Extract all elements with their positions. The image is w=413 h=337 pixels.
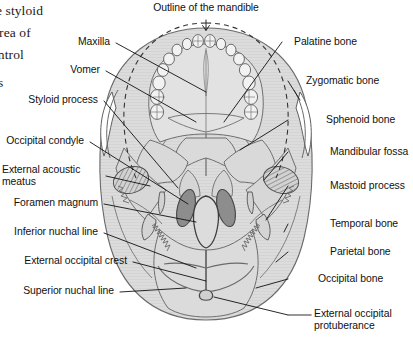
label-zygomatic-bone: Zygomatic bone [306, 75, 379, 87]
label-vomer: Vomer [2, 64, 100, 76]
label-palatine-bone: Palatine bone [294, 36, 357, 48]
page-text-fragment-1: e styloid [0, 2, 43, 20]
label-sphenoid-bone: Sphenoid bone [326, 114, 395, 126]
page-text-fragment-3: ontrol [0, 46, 24, 64]
label-outline-of-the-mandible: Outline of the mandible [130, 2, 282, 14]
label-mandibular-fossa: Mandibular fossa [330, 146, 408, 158]
label-superior-nuchal-line: Superior nuchal line [0, 285, 114, 297]
label-mastoid-process: Mastoid process [330, 180, 405, 192]
label-styloid-process: Styloid process [2, 94, 98, 106]
page-text-fragment-4: s [0, 74, 3, 92]
label-temporal-bone: Temporal bone [330, 218, 398, 230]
label-inferior-nuchal-line: Inferior nuchal line [0, 226, 98, 238]
label-external-acoustic-meatus: External acoustic meatus [2, 164, 98, 187]
label-occipital-bone: Occipital bone [318, 273, 383, 285]
label-maxilla: Maxilla [2, 36, 110, 48]
label-external-occipital-crest: External occipital crest [0, 255, 127, 267]
label-foramen-magnum: Foramen magnum [0, 197, 98, 209]
label-parietal-bone: Parietal bone [330, 246, 391, 258]
external-occipital-protuberance-mark [199, 290, 212, 300]
label-occipital-condyle: Occipital condyle [0, 135, 84, 147]
label-external-occipital-protuberance: External occipital protuberance [314, 308, 412, 331]
